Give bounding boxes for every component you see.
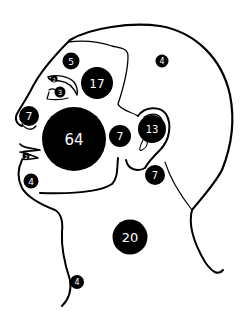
marker-count-label: 5 <box>68 57 74 67</box>
marker-count-label: 7 <box>117 130 124 143</box>
count-marker-eyebrow: 2 <box>51 76 58 83</box>
marker-count-label: 2 <box>24 154 27 160</box>
back-neck-outline <box>191 210 223 273</box>
count-marker-chin: 4 <box>24 174 39 189</box>
neck-side-outline <box>165 162 192 210</box>
count-marker-pre-auricular: 7 <box>109 125 131 147</box>
marker-count-label: 3 <box>58 89 62 97</box>
count-marker-temple: 17 <box>81 67 113 99</box>
marker-count-label: 64 <box>64 131 83 149</box>
count-marker-scalp: 4 <box>156 55 169 68</box>
count-marker-forehead: 5 <box>63 53 80 70</box>
marker-count-label: 4 <box>74 278 79 287</box>
marker-count-label: 7 <box>152 170 158 181</box>
marker-count-label: 17 <box>89 77 104 91</box>
count-marker-lip: 2 <box>23 153 30 160</box>
count-marker-throat: 4 <box>70 275 84 289</box>
count-marker-eye: 3 <box>55 87 66 98</box>
marker-layer: 517423764713247204 <box>19 53 169 290</box>
count-marker-ear: 13 <box>138 115 166 143</box>
head-diagram: 517423764713247204 <box>0 0 246 311</box>
marker-count-label: 2 <box>52 77 55 83</box>
marker-count-label: 4 <box>28 177 34 187</box>
marker-count-label: 13 <box>146 124 159 135</box>
count-marker-nose: 7 <box>19 106 39 126</box>
count-marker-post-auricular: 7 <box>145 165 165 185</box>
marker-count-label: 4 <box>159 57 164 66</box>
marker-count-label: 20 <box>122 230 139 245</box>
count-marker-neck: 20 <box>113 220 148 255</box>
marker-count-label: 7 <box>26 110 33 123</box>
count-marker-cheek: 64 <box>42 107 106 171</box>
